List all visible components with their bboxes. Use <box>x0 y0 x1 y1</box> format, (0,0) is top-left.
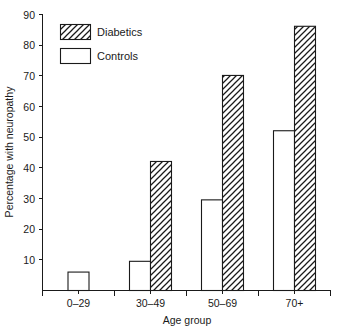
chart-container: 90 80 70 60 50 40 30 20 10 Percentage wi… <box>0 0 338 329</box>
x-tick-label-0-29: 0–29 <box>67 297 91 309</box>
y-tick-label-50: 50 <box>23 131 35 143</box>
y-tick-label-40: 40 <box>23 162 35 174</box>
y-axis-title: Percentage with neuropathy <box>3 86 15 218</box>
y-tick-label-10: 10 <box>23 254 35 266</box>
x-tick-label-70-plus: 70+ <box>286 297 304 309</box>
legend-label-controls: Controls <box>97 50 138 62</box>
bar-diabetics-70-plus <box>295 26 316 290</box>
y-tick-label-60: 60 <box>23 101 35 113</box>
bar-controls-0-29 <box>68 272 89 290</box>
neuropathy-bar-chart: 90 80 70 60 50 40 30 20 10 Percentage wi… <box>0 0 338 329</box>
x-axis-title: Age group <box>163 314 212 326</box>
bar-diabetics-50-69 <box>223 75 244 290</box>
legend-item-controls: Controls <box>61 49 139 64</box>
y-tick-label-30: 30 <box>23 193 35 205</box>
bar-controls-70-plus <box>274 131 295 291</box>
bar-controls-30-49 <box>130 261 151 290</box>
legend-label-diabetics: Diabetics <box>97 26 143 38</box>
y-tick-label-70: 70 <box>23 70 35 82</box>
bar-controls-50-69 <box>202 200 223 291</box>
legend-item-diabetics: Diabetics <box>61 25 143 40</box>
legend-swatch-controls <box>61 49 91 64</box>
y-tick-label-80: 80 <box>23 39 35 51</box>
y-tick-label-90: 90 <box>23 9 35 21</box>
x-tick-label-50-69: 50–69 <box>208 297 237 309</box>
bar-diabetics-30-49 <box>151 161 172 290</box>
y-tick-label-20: 20 <box>23 223 35 235</box>
x-tick-label-30-49: 30–49 <box>136 297 165 309</box>
legend-swatch-diabetics <box>61 25 91 40</box>
